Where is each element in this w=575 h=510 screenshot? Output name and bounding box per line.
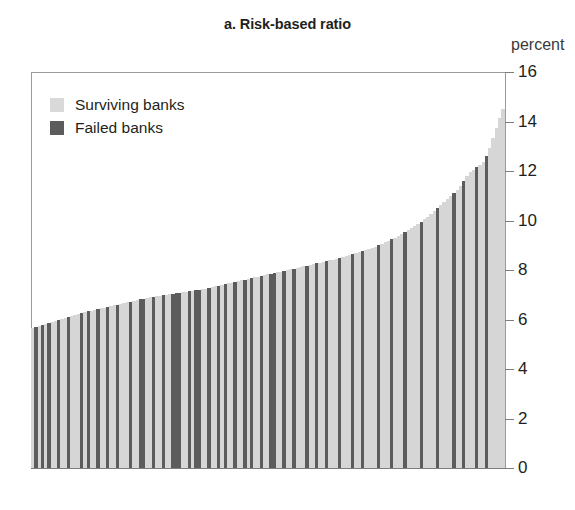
y-axis-unit-label: percent (505, 36, 575, 54)
y-axis-tick (505, 419, 514, 420)
legend-swatch-surviving-icon (50, 98, 64, 112)
y-axis-tick (505, 122, 514, 123)
y-axis-tick-label: 2 (518, 410, 527, 427)
legend-item-surviving: Surviving banks (50, 94, 184, 115)
chart-title: a. Risk-based ratio (0, 16, 575, 32)
y-axis-tick-label: 0 (518, 459, 527, 476)
y-axis-tick-label: 4 (518, 360, 527, 377)
legend-label-surviving: Surviving banks (75, 96, 184, 114)
y-axis-tick (505, 468, 514, 469)
y-axis-tick (505, 320, 514, 321)
x-axis-baseline (31, 468, 505, 469)
y-axis-tick (505, 72, 514, 73)
y-axis-tick-label: 8 (518, 261, 527, 278)
legend-swatch-failed-icon (50, 121, 64, 135)
chart-legend: Surviving banks Failed banks (50, 94, 184, 140)
legend-item-failed: Failed banks (50, 117, 184, 138)
y-axis-tick (505, 369, 514, 370)
legend-label-failed: Failed banks (75, 119, 163, 137)
y-axis-tick-label: 6 (518, 311, 527, 328)
y-axis-tick-label: 14 (518, 113, 537, 130)
y-axis-tick-label: 10 (518, 212, 537, 229)
chart-figure: a. Risk-based ratio percent 024681012141… (0, 0, 575, 510)
y-axis-tick (505, 221, 514, 222)
y-axis-tick-label: 16 (518, 63, 537, 80)
y-axis-tick (505, 171, 514, 172)
y-axis-tick-label: 12 (518, 162, 537, 179)
y-axis-tick (505, 270, 514, 271)
